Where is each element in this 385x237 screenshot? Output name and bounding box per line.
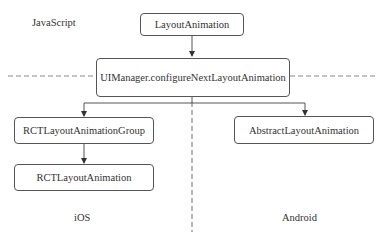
region-label-android: Android <box>282 212 317 223</box>
node-abstract-layout-animation: AbstractLayoutAnimation <box>234 116 374 144</box>
region-label-ios: iOS <box>74 212 90 223</box>
region-label-javascript: JavaScript <box>32 17 76 28</box>
node-rct-layout-animation-group: RCTLayoutAnimationGroup <box>14 117 154 144</box>
node-uimanager-configure: UIManager.configureNextLayoutAnimation <box>96 58 290 97</box>
node-rct-layout-animation: RCTLayoutAnimation <box>14 164 154 191</box>
edge-uimanager-rctgroup <box>84 103 192 116</box>
diagram-canvas: JavaScript LayoutAnimation UIManager.con… <box>0 0 385 237</box>
edge-uimanager-abstract <box>192 103 305 115</box>
node-layout-animation: LayoutAnimation <box>140 13 244 36</box>
